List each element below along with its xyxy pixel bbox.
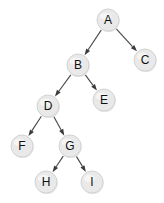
tree-edge-a-c — [116, 29, 137, 51]
tree-node-f[interactable]: F — [11, 135, 34, 158]
edge-arrowhead — [80, 165, 85, 172]
tree-node-g[interactable]: G — [59, 135, 82, 158]
node-circle[interactable] — [93, 89, 115, 111]
edge-arrowhead — [59, 129, 64, 136]
tree-node-i[interactable]: I — [81, 171, 104, 194]
edge-arrowhead — [28, 129, 33, 136]
tree-edge-d-g — [54, 117, 64, 136]
edge-arrowhead — [53, 166, 59, 173]
binary-tree-diagram: ABCDEFGHI — [0, 0, 164, 203]
node-gloss-highlight — [40, 99, 51, 106]
tree-edge-d-f — [28, 116, 41, 136]
tree-edge-g-h — [53, 156, 64, 172]
node-circle[interactable] — [11, 135, 33, 157]
node-gloss-highlight — [96, 93, 107, 100]
node-circle[interactable] — [35, 171, 57, 193]
node-circle[interactable] — [81, 171, 103, 193]
node-gloss-highlight — [62, 139, 73, 146]
tree-edge-b-e — [85, 75, 97, 91]
tree-canvas: ABCDEFGHI — [0, 0, 164, 203]
node-gloss-highlight — [38, 175, 49, 182]
node-gloss-highlight — [70, 58, 81, 65]
node-gloss-highlight — [14, 139, 25, 146]
tree-node-h[interactable]: H — [35, 171, 58, 194]
tree-edge-g-i — [76, 156, 85, 172]
edge-arrowhead — [55, 90, 61, 97]
node-gloss-highlight — [100, 13, 111, 20]
edge-arrowhead — [85, 49, 91, 56]
tree-edge-b-d — [55, 75, 71, 97]
node-gloss-highlight — [84, 175, 95, 182]
tree-node-a[interactable]: A — [97, 9, 120, 32]
tree-node-b[interactable]: B — [67, 54, 90, 77]
node-circle[interactable] — [134, 49, 156, 71]
tree-node-c[interactable]: C — [134, 49, 157, 72]
tree-node-d[interactable]: D — [37, 95, 60, 118]
tree-node-e[interactable]: E — [93, 89, 116, 112]
node-circle[interactable] — [97, 9, 119, 31]
node-gloss-highlight — [137, 53, 148, 60]
tree-edge-a-b — [85, 30, 102, 55]
node-circle[interactable] — [37, 95, 59, 117]
node-circle[interactable] — [67, 54, 89, 76]
node-circle[interactable] — [59, 135, 81, 157]
